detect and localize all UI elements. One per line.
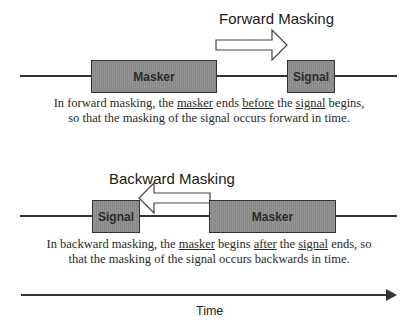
diagram-arrows xyxy=(0,0,418,329)
time-arrowhead-icon xyxy=(386,289,397,301)
forward-masking-title: Forward Masking xyxy=(219,10,334,27)
forward-signal-box: Signal xyxy=(287,60,335,93)
backward-arrow-icon xyxy=(139,183,210,213)
forward-masker-box: Masker xyxy=(91,60,217,93)
forward-caption: In forward masking, the masker ends befo… xyxy=(0,96,418,126)
time-axis-label: Time xyxy=(196,304,223,318)
backward-masker-box: Masker xyxy=(209,200,336,233)
backward-caption: In backward masking, the masker begins a… xyxy=(0,237,418,267)
backward-masking-title: Backward Masking xyxy=(109,170,235,187)
backward-signal-box: Signal xyxy=(92,200,140,233)
forward-arrow-icon xyxy=(216,30,287,60)
